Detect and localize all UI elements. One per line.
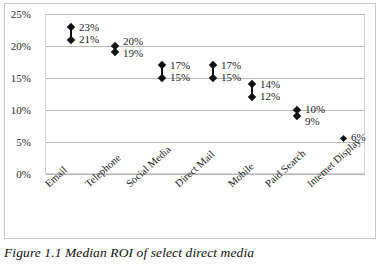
value-label-direct-mail-high: 17% [221, 60, 241, 71]
value-label-telephone-high: 20% [123, 36, 143, 47]
value-label-mobile-low: 12% [260, 91, 280, 102]
gridline-20 [46, 46, 365, 47]
value-label-paid-search-low: 9% [305, 116, 320, 127]
y-axis-tick-20: 20% [0, 41, 31, 52]
y-axis-tick-0: 0% [0, 169, 31, 180]
gridline-15 [46, 78, 365, 79]
y-axis-tick-10: 10% [0, 105, 31, 116]
chart-frame-box: 25% 20% 15% 10% 5% 0% 23% 21% 20% 19% 17… [4, 3, 376, 239]
figure-caption: Figure 1.1 Median ROI of select direct m… [4, 245, 254, 261]
value-label-paid-search-high: 10% [305, 104, 325, 115]
y-axis-tick-25: 25% [0, 9, 31, 20]
value-label-telephone-low: 19% [123, 48, 143, 59]
value-label-social-media-low: 15% [170, 72, 190, 83]
value-label-direct-mail-low: 15% [221, 72, 241, 83]
gridline-5 [46, 142, 365, 143]
value-label-email-low: 21% [79, 34, 99, 45]
figure-container: 25% 20% 15% 10% 5% 0% 23% 21% 20% 19% 17… [0, 0, 382, 267]
value-label-social-media-high: 17% [170, 60, 190, 71]
value-label-email-high: 23% [79, 22, 99, 33]
value-label-mobile-high: 14% [260, 79, 280, 90]
y-axis-tick-15: 15% [0, 73, 31, 84]
gridline-25 [46, 14, 365, 15]
y-axis-tick-5: 5% [0, 137, 31, 148]
